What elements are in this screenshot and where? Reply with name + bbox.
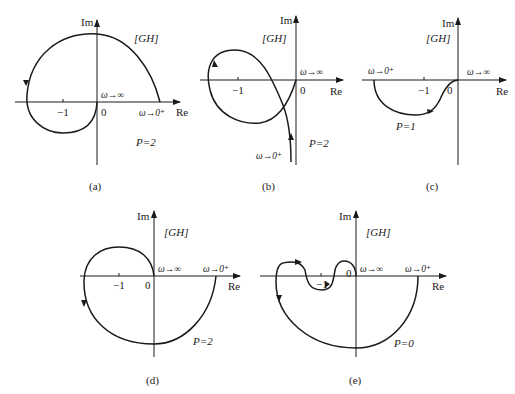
gh-label: [GH] [262, 32, 286, 44]
re-label: Re [432, 280, 444, 292]
p-label: P=2 [135, 136, 156, 148]
minus-one-label: −1 [232, 84, 244, 96]
im-label: Im [137, 210, 150, 222]
minus-one-label: −1 [418, 84, 430, 96]
panel-d: Im Re [GH] −1 0 ω→∞ ω→0⁺ P=2 (d) [80, 210, 240, 387]
omega-inf-label: ω→∞ [300, 67, 323, 77]
re-label: Re [228, 280, 240, 292]
zero-label: 0 [300, 84, 306, 96]
im-label: Im [442, 17, 455, 29]
p-label: P=0 [393, 337, 414, 349]
panel-a: Im Re [GH] −1 0 ω→∞ ω→0⁺ P=2 (a) [15, 16, 188, 193]
caption: (d) [146, 374, 159, 387]
re-label: Re [176, 106, 188, 118]
omega-zero-label: ω→0⁺ [405, 264, 431, 274]
nyquist-curve [374, 80, 458, 115]
p-label: P=2 [308, 137, 329, 149]
gh-label: [GH] [164, 226, 188, 238]
caption: (a) [89, 180, 102, 193]
gh-label: [GH] [366, 226, 390, 238]
im-label: Im [81, 16, 94, 28]
minus-one-label: −1 [113, 279, 125, 291]
zero-label: 0 [447, 84, 453, 96]
zero-label: 0 [145, 279, 151, 291]
panel-e: Im Re [GH] −1 0 ω→∞ ω→0⁺ P=0 (e) [260, 210, 446, 387]
caption: (b) [262, 180, 275, 193]
gh-label: [GH] [426, 32, 450, 44]
nyquist-curve [208, 50, 296, 162]
omega-zero-label: ω→0⁺ [139, 108, 165, 118]
zero-label: 0 [346, 267, 352, 279]
nyquist-curve [84, 247, 216, 344]
minus-one-label: −1 [316, 278, 328, 290]
omega-inf-label: ω→∞ [158, 264, 181, 274]
p-label: P=1 [395, 120, 416, 132]
im-label: Im [339, 210, 352, 222]
minus-one-label: −1 [57, 106, 69, 118]
panel-c: Im Re [GH] −1 0 ω→∞ ω→0⁺ P=1 (c) [362, 17, 508, 193]
direction-arrow-icon [81, 300, 87, 307]
omega-inf-label: ω→∞ [467, 67, 490, 77]
caption: (e) [349, 374, 362, 387]
panel-b: Im Re [GH] −1 0 ω→∞ ω→0⁺ P=2 (b) [200, 14, 343, 193]
caption: (c) [426, 180, 439, 193]
zero-label: 0 [101, 106, 107, 118]
omega-inf-label: ω→∞ [101, 90, 124, 100]
omega-zero-label: ω→0⁺ [203, 264, 229, 274]
p-label: P=2 [192, 335, 213, 347]
nyquist-figure: Im Re [GH] −1 0 ω→∞ ω→0⁺ P=2 (a) Im Re [… [0, 0, 515, 394]
omega-zero-label: ω→0⁺ [368, 66, 394, 76]
omega-zero-label: ω→0⁺ [256, 151, 282, 161]
re-label: Re [496, 85, 508, 97]
gh-label: [GH] [134, 32, 158, 44]
nyquist-curve [27, 34, 160, 133]
re-label: Re [330, 85, 342, 97]
direction-arrow-icon [276, 295, 282, 302]
im-label: Im [280, 14, 293, 26]
omega-inf-label: ω→∞ [360, 264, 383, 274]
